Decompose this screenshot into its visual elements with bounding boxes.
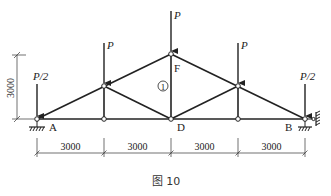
node-label-B: B [285, 121, 292, 133]
support-B-icon [298, 111, 320, 131]
load-label-apex: P [173, 9, 181, 21]
joint-D [169, 117, 174, 122]
load-label-right-end: P/2 [299, 70, 316, 82]
joint-A [35, 117, 40, 122]
joint-bottom-left [102, 117, 107, 122]
dimension-span-4: 3000 [262, 141, 282, 152]
dimension-span-3: 3000 [195, 141, 215, 152]
truss-members [37, 54, 305, 119]
support-A-pin-icon [29, 121, 45, 131]
truss-svg: P/2 P P P P/2 A D B F 1 3000 3000 3000 3… [0, 0, 331, 196]
joint-F [169, 52, 174, 57]
dimension-span-2: 3000 [128, 141, 148, 152]
figure-caption: 图 10 [152, 175, 181, 188]
dimension-height-label: 3000 [5, 78, 16, 98]
diagonal-right [171, 86, 238, 119]
joint-top-left [102, 84, 107, 89]
joint-B [303, 117, 308, 122]
dimension-span-1: 3000 [61, 141, 81, 152]
svg-text:1: 1 [161, 82, 166, 92]
load-label-left-panel: P [106, 39, 114, 51]
joint-bottom-right [236, 117, 241, 122]
truss-diagram: P/2 P P P P/2 A D B F 1 3000 3000 3000 3… [0, 0, 331, 196]
node-label-F: F [174, 62, 180, 74]
joint-top-right [236, 84, 241, 89]
load-label-left-end: P/2 [32, 70, 49, 82]
node-label-D: D [177, 121, 185, 133]
node-label-A: A [49, 121, 57, 133]
member-label-1: 1 [158, 81, 168, 92]
load-label-right-panel: P [240, 39, 248, 51]
